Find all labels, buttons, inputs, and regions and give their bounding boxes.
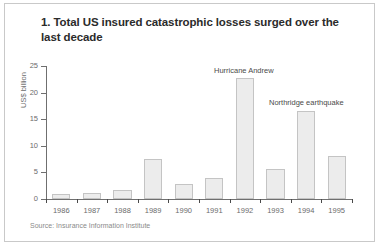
x-axis-label: 1987 bbox=[77, 206, 108, 215]
x-axis-tick bbox=[199, 199, 200, 203]
x-axis-tick bbox=[291, 199, 292, 203]
y-axis-tick-label: 25 bbox=[30, 61, 38, 70]
y-axis-tick: 5 bbox=[41, 172, 46, 173]
x-axis-tick bbox=[352, 199, 353, 203]
chart-panel: 1. Total US insured catastrophic losses … bbox=[4, 3, 375, 242]
x-axis-label: 1992 bbox=[230, 206, 261, 215]
y-axis-tick: 15 bbox=[41, 119, 46, 120]
bar bbox=[297, 111, 315, 199]
y-axis-tick-label: 20 bbox=[30, 88, 38, 97]
x-axis-tick bbox=[168, 199, 169, 203]
bar bbox=[52, 194, 70, 199]
bar bbox=[205, 178, 223, 199]
annotation-hurricane-andrew: Hurricane Andrew bbox=[214, 66, 274, 75]
y-axis-tick: 25 bbox=[41, 66, 46, 67]
annotation-northridge-earthquake: Northridge earthquake bbox=[269, 98, 344, 107]
chart-title: 1. Total US insured catastrophic losses … bbox=[41, 15, 361, 45]
x-axis-tick bbox=[138, 199, 139, 203]
x-axis-label: 1993 bbox=[260, 206, 291, 215]
y-axis-tick-label: 15 bbox=[30, 114, 38, 123]
bar bbox=[266, 169, 284, 199]
bar bbox=[236, 78, 254, 199]
x-axis-tick bbox=[321, 199, 322, 203]
bar bbox=[175, 184, 193, 199]
bar-series bbox=[46, 66, 352, 200]
x-axis-tick bbox=[46, 199, 47, 203]
x-axis-label: 1989 bbox=[138, 206, 169, 215]
y-axis-tick-label: 10 bbox=[30, 141, 38, 150]
source-note: Source: Insurance Information Institute bbox=[30, 222, 150, 229]
y-axis-title: US$ billion bbox=[19, 72, 28, 108]
bar bbox=[144, 159, 162, 199]
x-axis-tick bbox=[77, 199, 78, 203]
x-axis-label: 1994 bbox=[291, 206, 322, 215]
plot-area: 0510152025 19861987198819891990199119921… bbox=[46, 66, 352, 200]
x-axis-label: 1991 bbox=[199, 206, 230, 215]
x-axis-tick bbox=[107, 199, 108, 203]
x-axis-label: 1995 bbox=[321, 206, 352, 215]
y-axis-tick-label: 0 bbox=[34, 194, 38, 203]
x-axis-label: 1988 bbox=[107, 206, 138, 215]
y-axis-tick: 20 bbox=[41, 93, 46, 94]
y-axis-tick-label: 5 bbox=[34, 167, 38, 176]
bar bbox=[113, 190, 131, 199]
x-axis-label: 1986 bbox=[46, 206, 77, 215]
y-axis-tick: 10 bbox=[41, 146, 46, 147]
bar bbox=[83, 193, 101, 199]
x-axis-tick bbox=[260, 199, 261, 203]
bar bbox=[328, 156, 346, 199]
x-axis-label: 1990 bbox=[168, 206, 199, 215]
x-axis-tick bbox=[230, 199, 231, 203]
